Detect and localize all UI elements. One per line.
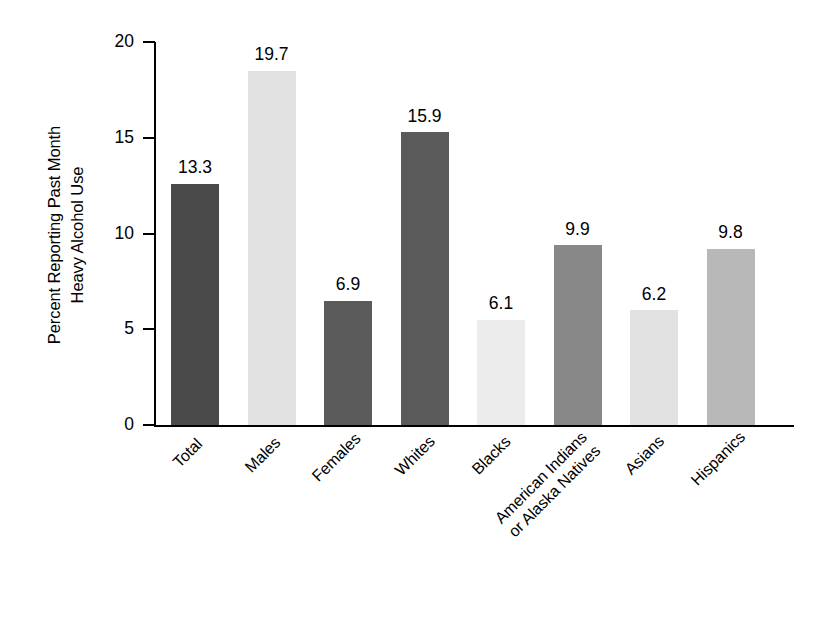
bar-group[interactable]: 6.9 [324,42,372,425]
x-axis-label: Females [308,429,364,485]
x-axis-line [154,425,794,427]
y-tick-label-text: 5 [80,320,134,338]
bar-value-label: 9.8 [686,224,776,242]
x-axis-label: Hispanics [687,427,749,489]
bar-group[interactable]: 6.1 [477,42,525,425]
bar-group[interactable]: 15.9 [401,42,449,425]
bar[interactable] [707,249,755,425]
y-tick-mark [143,233,155,235]
bar-group[interactable]: 19.7 [248,42,296,425]
x-axis-label: Asians [621,432,668,479]
y-tick-mark [143,328,155,330]
bar-value-label: 15.9 [380,108,470,126]
y-tick-label-text: 15 [80,129,134,147]
bar-chart: Percent Reporting Past Month Heavy Alcoh… [0,0,825,626]
x-axis-label: Blacks [468,432,514,478]
bar[interactable] [630,310,678,425]
bar-value-label: 6.1 [456,295,546,313]
y-tick-label-text: 10 [80,225,134,243]
y-tick-mark [143,41,155,43]
x-axis-label: Whites [391,431,439,479]
bar-value-label: 6.9 [303,276,393,294]
bar-group[interactable]: 9.8 [707,42,755,425]
y-tick-mark [143,424,155,426]
x-axis-label: Total [169,435,206,472]
bar-value-label: 9.9 [533,221,623,239]
y-tick-mark [143,137,155,139]
y-tick-label-text: 0 [80,416,134,434]
bar-value-label: 19.7 [227,46,317,64]
bar[interactable] [324,301,372,425]
bar[interactable] [248,71,296,425]
plot-area: 13.319.76.915.96.19.96.29.8 [156,42,794,425]
bar-group[interactable]: 9.9 [554,42,602,425]
bar[interactable] [401,132,449,425]
bar-group[interactable]: 6.2 [630,42,678,425]
bar[interactable] [477,320,525,425]
bar[interactable] [554,245,602,425]
bar-group[interactable]: 13.3 [171,42,219,425]
x-axis-label: Males [241,433,284,476]
bar-value-label: 13.3 [150,159,240,177]
y-tick-label-text: 20 [80,33,134,51]
bar-value-label: 6.2 [609,286,699,304]
bar[interactable] [171,184,219,425]
